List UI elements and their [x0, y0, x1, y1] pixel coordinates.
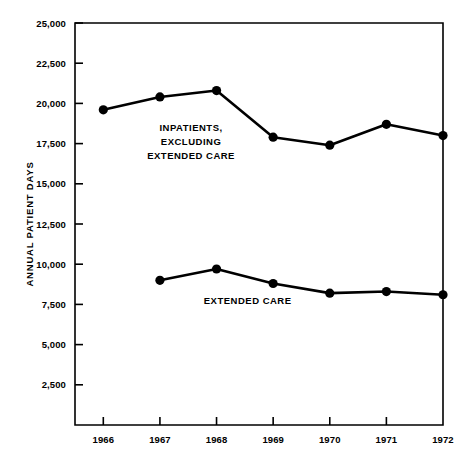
data-point [212, 264, 221, 273]
y-tick-label: 25,000 [36, 18, 66, 29]
x-tick-label: 1970 [319, 434, 341, 445]
series-inpatients [99, 86, 448, 150]
data-point [382, 287, 391, 296]
chart-figure: 2,5005,0007,50010,00012,50015,00017,5002… [0, 0, 470, 458]
data-point [382, 120, 391, 129]
x-tick-label: 1971 [376, 434, 398, 445]
y-axis-ticks [75, 23, 83, 385]
data-point [438, 290, 447, 299]
extended-care-annotation: EXTENDED CARE [204, 295, 292, 306]
y-axis-title: ANNUAL PATIENT DAYS [24, 161, 35, 286]
plot-frame [75, 23, 443, 425]
data-point [99, 105, 108, 114]
inpatients-annotation: INPATIENTS,EXCLUDINGEXTENDED CARE [147, 122, 235, 161]
y-tick-label: 2,500 [42, 379, 66, 390]
y-tick-label: 22,500 [36, 58, 66, 69]
x-tick-label: 1967 [149, 434, 171, 445]
data-point [325, 141, 334, 150]
y-axis-tick-labels: 2,5005,0007,50010,00012,50015,00017,5002… [36, 18, 66, 391]
y-tick-label: 7,500 [42, 299, 66, 310]
data-point [155, 276, 164, 285]
x-tick-label: 1972 [432, 434, 454, 445]
series-line [160, 269, 443, 295]
y-tick-label: 17,500 [36, 138, 66, 149]
line-chart: 2,5005,0007,50010,00012,50015,00017,5002… [0, 0, 470, 458]
x-axis-ticks [103, 417, 386, 425]
y-tick-label: 5,000 [42, 339, 66, 350]
y-tick-label: 20,000 [36, 98, 66, 109]
y-tick-label: 12,500 [36, 219, 66, 230]
y-tick-label: 10,000 [36, 259, 66, 270]
annotation-line: EXTENDED CARE [204, 295, 292, 306]
data-point [269, 279, 278, 288]
series-extended-care [155, 264, 447, 299]
annotation-line: EXTENDED CARE [147, 150, 235, 161]
x-tick-label: 1968 [206, 434, 228, 445]
annotation-line: EXCLUDING [161, 136, 221, 147]
data-point [155, 92, 164, 101]
data-point [212, 86, 221, 95]
data-series-group [99, 86, 448, 299]
data-point [325, 289, 334, 298]
data-point [269, 133, 278, 142]
x-axis-tick-labels: 1966196719681969197019711972 [93, 434, 454, 445]
x-tick-label: 1969 [262, 434, 284, 445]
data-point [438, 131, 447, 140]
x-tick-label: 1966 [93, 434, 115, 445]
annotation-line: INPATIENTS, [159, 122, 222, 133]
axes-border [75, 23, 443, 425]
y-tick-label: 15,000 [36, 178, 66, 189]
